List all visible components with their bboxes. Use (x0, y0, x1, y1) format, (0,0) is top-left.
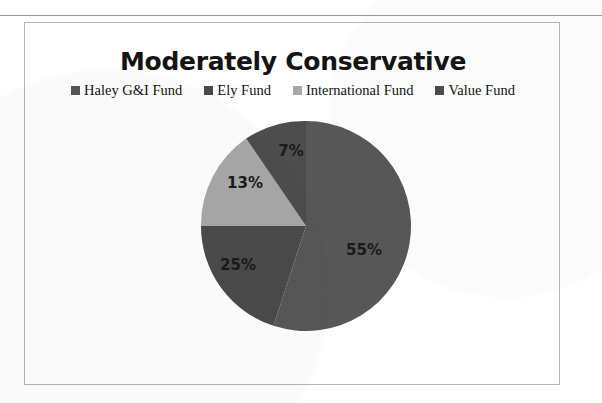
legend-item-label: Ely Fund (217, 83, 271, 98)
square-swatch-icon (204, 86, 213, 95)
legend-item-international-fund: International Fund (293, 83, 414, 98)
legend-item-haley-gi-fund: Haley G&I Fund (71, 83, 182, 98)
legend-item-value-fund: Value Fund (435, 83, 514, 98)
legend-item-ely-fund: Ely Fund (204, 83, 271, 98)
pie-chart-area: 55% 25% 13% 7% (25, 107, 561, 385)
pie-label-ely-fund: 25% (220, 256, 256, 274)
pie-chart: 55% 25% 13% 7% (198, 118, 414, 334)
square-swatch-icon (435, 86, 444, 95)
chart-frame: Moderately Conservative Haley G&I Fund E… (24, 22, 560, 385)
square-swatch-icon (71, 86, 80, 95)
legend-item-label: International Fund (306, 83, 414, 98)
square-swatch-icon (293, 86, 302, 95)
pie-label-haley-gi-fund: 55% (346, 241, 382, 259)
chart-title: Moderately Conservative (25, 47, 561, 76)
pie-label-value-fund: 7% (278, 142, 303, 160)
pie-label-international-fund: 13% (227, 174, 263, 192)
page-top-rule (0, 15, 602, 16)
chart-legend: Haley G&I Fund Ely Fund International Fu… (25, 83, 561, 98)
legend-item-label: Value Fund (448, 83, 514, 98)
legend-item-label: Haley G&I Fund (84, 83, 182, 98)
